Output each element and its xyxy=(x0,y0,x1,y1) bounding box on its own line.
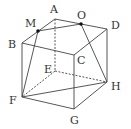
vertex-label-D: D xyxy=(111,19,120,32)
point-M-dot xyxy=(36,29,40,33)
vertex-label-H: H xyxy=(111,80,121,93)
point-O-dot xyxy=(79,22,83,26)
edge-CD xyxy=(74,29,107,55)
vertex-label-C: C xyxy=(77,54,85,67)
vertex-label-F: F xyxy=(9,94,17,107)
vertex-label-M: M xyxy=(25,17,36,30)
edge-BC xyxy=(22,43,74,55)
vertex-label-B: B xyxy=(8,38,16,51)
edge-FG xyxy=(22,97,74,109)
vertex-label-G: G xyxy=(70,114,79,127)
vertex-label-A: A xyxy=(49,3,59,16)
vertex-label-E: E xyxy=(44,63,52,76)
edge-FH xyxy=(22,82,107,97)
edge-EH-dashed xyxy=(55,71,107,82)
cube-diagram: ABCDEFGHMO xyxy=(0,0,131,129)
edge-OH xyxy=(81,24,107,82)
edge-MO xyxy=(38,24,81,31)
edge-GH xyxy=(74,82,107,109)
vertex-label-O: O xyxy=(77,9,86,22)
